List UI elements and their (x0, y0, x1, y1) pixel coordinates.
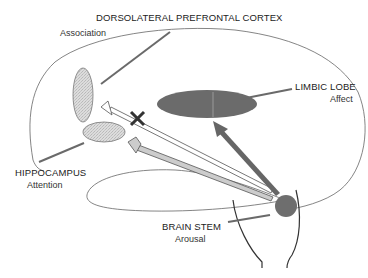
arrow-brainstem-to-limbic (213, 121, 280, 196)
dlpfc-function: Association (60, 29, 106, 38)
dlpfc-leader-line (101, 32, 170, 84)
dlpfc-region (73, 68, 93, 122)
brainstem-left-outline (233, 200, 262, 268)
brainstem-region (275, 195, 297, 217)
hippocampus-region (83, 122, 125, 142)
brainstem-leader-line (228, 215, 270, 222)
brainstem-function: Arousal (175, 235, 206, 244)
hippocampus-function: Attention (27, 181, 63, 190)
limbic-region (157, 90, 257, 118)
brainstem-title: BRAIN STEM (162, 222, 221, 232)
hippocampus-leader-line (39, 143, 84, 162)
arrow-brainstem-to-hippocampus (128, 137, 273, 201)
limbic-function: Affect (330, 95, 353, 104)
limbic-title: LIMBIC LOBE (295, 82, 356, 92)
hippocampus-title: HIPPOCAMPUS (15, 168, 86, 178)
limbic-leader-line (241, 89, 292, 99)
dlpfc-title: DORSOLATERAL PREFRONTAL CORTEX (96, 13, 283, 23)
